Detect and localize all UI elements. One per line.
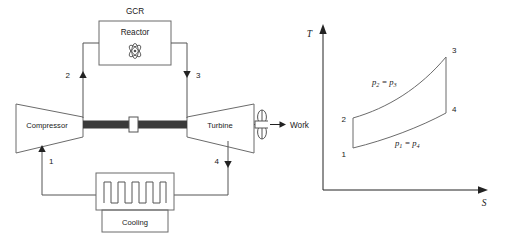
cooling-label: Cooling: [122, 218, 148, 227]
work-output-group: Work: [270, 121, 310, 130]
x-axis-arrow-icon: [478, 186, 488, 193]
turbine-label: Turbine: [207, 121, 232, 130]
propeller-icon: [254, 110, 268, 139]
ts-point-1-label: 1: [342, 150, 347, 159]
isobar-lower-annotation: p1=p4: [394, 138, 420, 149]
isobar-upper-annotation: p2=p3: [371, 77, 397, 88]
svg-text:p1=p4: p1=p4: [394, 138, 420, 149]
pipe-reactor-to-3: [171, 43, 187, 118]
work-label: Work: [290, 121, 310, 130]
isobar-upper-sub-right: 3: [393, 81, 397, 88]
schematic-svg: GCR Reactor 2 3 Compressor: [0, 0, 268, 236]
figure-root: GCR Reactor 2 3 Compressor: [0, 0, 508, 236]
x-axis-label: S: [482, 198, 487, 208]
flow-arrow-3-icon: [183, 71, 190, 78]
y-axis-arrow-icon: [319, 24, 326, 34]
flow-arrow-4-icon: [224, 161, 231, 168]
pipe-2-to-reactor: [83, 43, 99, 118]
isobar-lower-sub-right: 4: [417, 142, 420, 149]
isobar-lower-sub-left: 1: [399, 142, 402, 149]
flow-arrow-2-icon: [79, 71, 86, 78]
state-point-4-label: 4: [215, 157, 220, 166]
compressor-label: Compressor: [26, 121, 68, 130]
heat-exchanger-coil-icon: [104, 182, 166, 203]
arrow-right-icon: [280, 121, 287, 127]
state-point-2-label: 2: [66, 71, 71, 80]
ts-point-2-label: 2: [342, 115, 347, 124]
ts-point-3-label: 3: [452, 46, 457, 55]
isobar-lower-relation: =: [404, 138, 410, 148]
reactor-label: Reactor: [121, 28, 150, 37]
isobar-upper-relation: =: [381, 77, 387, 87]
y-axis-label: T: [307, 29, 313, 39]
state-point-3-label: 3: [196, 71, 201, 80]
process-2-3-curve: [353, 57, 446, 118]
ts-diagram-panel: Work T S 2 1 3 4: [268, 0, 508, 236]
ts-point-4-label: 4: [452, 105, 457, 114]
atom-icon: [127, 43, 142, 58]
isobar-upper-sub-left: 2: [376, 81, 379, 88]
ts-diagram-svg: Work T S 2 1 3 4: [268, 0, 508, 236]
shaft-coupling-icon: [83, 117, 187, 132]
svg-text:p2=p3: p2=p3: [371, 77, 397, 88]
cycle-schematic-panel: GCR Reactor 2 3 Compressor: [0, 0, 268, 236]
state-point-1-label: 1: [49, 157, 54, 166]
reactor-outer-label: GCR: [126, 7, 144, 16]
cooling-exchanger-box: [96, 173, 174, 210]
